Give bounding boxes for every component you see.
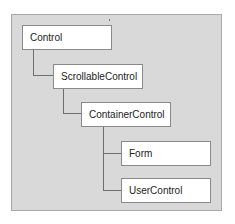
connector-scrollable-container-v	[63, 88, 64, 114]
node-form: Form	[121, 141, 211, 166]
connector-control-scrollable-v	[33, 50, 34, 76]
node-container-control: ContainerControl	[81, 102, 171, 127]
node-scrollable-control: ScrollableControl	[53, 64, 143, 89]
connector-container-usercontrol-h	[103, 190, 121, 191]
connector-container-children-v	[103, 126, 104, 191]
connector-control-scrollable-h	[33, 75, 53, 76]
connector-scrollable-container-h	[63, 113, 81, 114]
node-user-control: UserControl	[121, 178, 211, 203]
node-control: Control	[22, 25, 112, 50]
speck	[109, 19, 110, 21]
connector-container-form-h	[103, 153, 121, 154]
